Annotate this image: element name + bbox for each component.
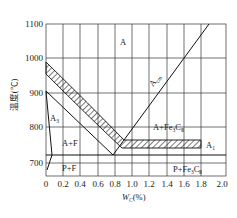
- region-label-a1: A1: [206, 140, 215, 151]
- phase-diagram: 1100 1000 900 800 700 0 0.2 0.4 0.6 0.8 …: [0, 0, 237, 218]
- acm-line: [113, 24, 209, 155]
- region-label-a3: A3: [50, 113, 59, 124]
- x-axis-label: WC(%): [122, 192, 146, 203]
- y-axis-ticks: 1100 1000 900 800 700: [25, 19, 44, 168]
- x-tick: 0.8: [109, 179, 121, 189]
- x-tick: 1.6: [178, 179, 190, 189]
- x-tick: 2.0: [216, 179, 228, 189]
- x-axis-ticks: 0 0.2 0.4 0.6 0.8 1.0 1.2 1.4 1.6 1.8 2.…: [44, 179, 228, 189]
- region-label-austenite: A: [120, 37, 127, 47]
- y-tick: 1100: [25, 19, 43, 29]
- x-tick: 1.2: [143, 179, 154, 189]
- ferrite-solvus-line: [46, 91, 52, 170]
- y-axis-label: 温度(℃): [9, 79, 19, 112]
- x-tick: 0.6: [92, 179, 104, 189]
- y-tick: 1000: [25, 53, 44, 63]
- y-tick: 700: [30, 158, 44, 168]
- hatched-band: [46, 62, 201, 148]
- region-label-p-plus-fe3c: P+Fe3CⅡ: [173, 164, 202, 175]
- x-tick: 1.0: [126, 179, 138, 189]
- region-label-p-plus-f: P+F: [62, 163, 77, 173]
- y-tick: 800: [30, 122, 44, 132]
- x-tick: 1.4: [161, 179, 173, 189]
- x-tick: 0.4: [74, 179, 86, 189]
- region-label-a-plus-f: A+F: [62, 138, 78, 148]
- x-tick: 1.8: [195, 179, 207, 189]
- x-tick: 0.2: [57, 179, 68, 189]
- y-tick: 900: [30, 88, 44, 98]
- x-tick: 0: [44, 179, 49, 189]
- region-label-a-plus-fe3c: A+Fe3CⅡ: [153, 122, 184, 133]
